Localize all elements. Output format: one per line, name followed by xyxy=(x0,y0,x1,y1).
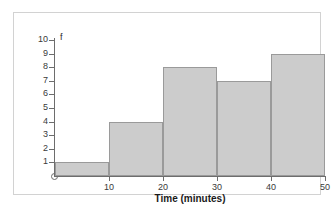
y-axis-tick xyxy=(49,67,54,68)
y-axis-tick xyxy=(49,94,54,95)
histogram-bar xyxy=(109,122,163,176)
y-axis-tick-label-wrap: 6 xyxy=(28,89,48,98)
figure-frame: f 12345678910 1020304050 Time (minutes) xyxy=(13,12,321,195)
x-axis-tick-label: 30 xyxy=(205,182,229,192)
y-axis-tick-label: 1 xyxy=(32,157,48,166)
x-axis-tick xyxy=(217,177,218,181)
y-axis-tick-label: 7 xyxy=(32,76,48,85)
y-axis-tick xyxy=(49,122,54,123)
y-axis-tick-label: 6 xyxy=(32,89,48,98)
histogram-bar xyxy=(217,81,271,176)
y-axis-tick xyxy=(49,135,54,136)
histogram-figure: f 12345678910 1020304050 Time (minutes) xyxy=(0,0,336,212)
y-axis-tick-label-wrap: 2 xyxy=(28,144,48,153)
y-axis-tick-label-wrap: 8 xyxy=(28,62,48,71)
y-axis-tick-label-wrap: 5 xyxy=(28,103,48,112)
y-axis-tick-label-wrap: 7 xyxy=(28,76,48,85)
x-axis-tick-label: 10 xyxy=(97,182,121,192)
x-axis-tick-label: 40 xyxy=(259,182,283,192)
y-axis-tick xyxy=(49,108,54,109)
y-axis-tick-label-wrap: 1 xyxy=(28,157,48,166)
x-axis-tick-label: 50 xyxy=(313,182,336,192)
x-axis-tick xyxy=(109,177,110,181)
x-axis-tick-label: 20 xyxy=(151,182,175,192)
x-axis-tick xyxy=(325,177,326,181)
y-axis-tick xyxy=(49,162,54,163)
y-axis-tick xyxy=(49,149,54,150)
y-axis-tick-label: 8 xyxy=(32,62,48,71)
y-axis-tick xyxy=(49,81,54,82)
y-axis-tick-label-wrap: 9 xyxy=(28,49,48,58)
y-axis-tick-label: 2 xyxy=(32,144,48,153)
histogram-bar xyxy=(271,54,325,176)
x-axis-line xyxy=(54,176,326,177)
y-axis-tick-label: 4 xyxy=(32,117,48,126)
plot-area xyxy=(55,40,325,176)
y-axis-tick xyxy=(49,54,54,55)
y-axis-tick-label-wrap: 4 xyxy=(28,117,48,126)
y-axis-tick-label: 3 xyxy=(32,130,48,139)
y-axis-tick-label-wrap: 3 xyxy=(28,130,48,139)
y-axis-tick xyxy=(49,40,54,41)
x-axis-tick xyxy=(163,177,164,181)
y-axis-tick-label: 10 xyxy=(32,35,48,44)
x-axis-tick xyxy=(271,177,272,181)
histogram-bar xyxy=(163,67,217,176)
y-axis-tick-label: 5 xyxy=(32,103,48,112)
x-axis-title: Time (minutes) xyxy=(55,193,325,204)
histogram-bar xyxy=(55,162,109,176)
y-axis-tick-label-wrap: 10 xyxy=(28,35,48,44)
y-axis-tick-label: 9 xyxy=(32,49,48,58)
